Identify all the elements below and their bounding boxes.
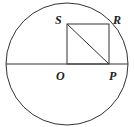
- label-P: P: [109, 69, 117, 83]
- geometry-diagram: S R O P: [0, 0, 134, 127]
- label-O: O: [56, 69, 65, 83]
- label-S: S: [55, 13, 62, 27]
- diagonal-SP: [67, 24, 109, 64]
- label-R: R: [112, 13, 121, 27]
